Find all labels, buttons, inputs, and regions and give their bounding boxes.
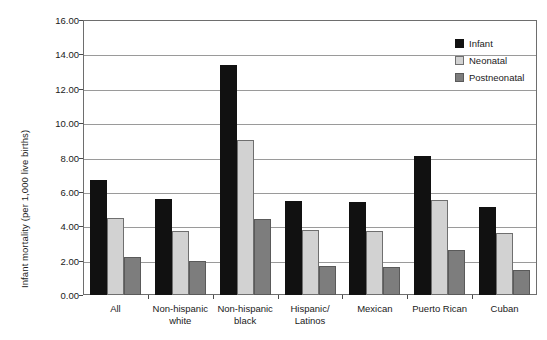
y-tick-mark — [79, 123, 83, 124]
bar — [513, 270, 530, 295]
x-tick-mark — [278, 295, 279, 299]
legend-swatch-icon — [455, 39, 464, 48]
y-tick-label: 12.00 — [35, 83, 79, 94]
y-tick-label: 2.00 — [35, 255, 79, 266]
bar — [172, 231, 189, 295]
y-tick-label: 6.00 — [35, 186, 79, 197]
bar — [254, 219, 271, 295]
y-tick-mark — [79, 226, 83, 227]
y-tick-mark — [79, 20, 83, 21]
gridline — [84, 227, 536, 228]
bar — [431, 200, 448, 295]
y-tick-label: 14.00 — [35, 49, 79, 60]
bar — [220, 65, 237, 295]
bar — [366, 231, 383, 295]
y-tick-label: 10.00 — [35, 118, 79, 129]
x-tick-mark — [342, 295, 343, 299]
y-tick-label: 4.00 — [35, 221, 79, 232]
bar — [349, 202, 366, 295]
y-tick-mark — [79, 54, 83, 55]
legend-label: Neonatal — [469, 55, 507, 66]
bar — [496, 233, 513, 295]
x-category-label: Cuban — [465, 303, 544, 315]
legend-item: Neonatal — [455, 53, 524, 68]
x-tick-mark — [148, 295, 149, 299]
bar — [124, 257, 141, 295]
y-tick-mark — [79, 158, 83, 159]
bar — [237, 140, 254, 295]
y-tick-mark — [79, 89, 83, 90]
gridline — [84, 90, 536, 91]
bar — [189, 261, 206, 295]
y-tick-mark — [79, 261, 83, 262]
infant-mortality-bar-chart: Infant mortality (per 1,000 live births)… — [0, 0, 547, 340]
legend-swatch-icon — [455, 56, 464, 65]
x-tick-mark — [407, 295, 408, 299]
legend-item: Postneonatal — [455, 70, 524, 85]
legend-swatch-icon — [455, 73, 464, 82]
x-tick-mark — [213, 295, 214, 299]
y-tick-mark — [79, 192, 83, 193]
x-tick-mark — [472, 295, 473, 299]
bar — [90, 180, 107, 295]
bar — [302, 230, 319, 295]
gridline — [84, 159, 536, 160]
y-tick-label: 16.00 — [35, 15, 79, 26]
gridline — [84, 193, 536, 194]
y-tick-label: 0.00 — [35, 290, 79, 301]
legend-label: Postneonatal — [469, 72, 524, 83]
bar — [383, 267, 400, 295]
bar — [448, 250, 465, 295]
legend-item: Infant — [455, 36, 524, 51]
y-tick-mark — [79, 295, 83, 296]
chart-legend: InfantNeonatalPostneonatal — [455, 36, 524, 87]
y-tick-label: 8.00 — [35, 152, 79, 163]
gridline — [84, 124, 536, 125]
bar — [479, 207, 496, 295]
bar — [319, 266, 336, 295]
bar — [414, 156, 431, 295]
bar — [107, 218, 124, 295]
bar — [155, 199, 172, 295]
legend-label: Infant — [469, 38, 493, 49]
y-axis-title: Infant mortality (per 1,000 live births) — [19, 0, 33, 288]
bar — [285, 201, 302, 295]
